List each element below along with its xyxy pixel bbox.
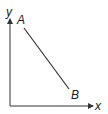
point-a-label: A xyxy=(16,13,25,27)
segment-ab xyxy=(24,28,69,89)
point-b-label: B xyxy=(71,88,79,102)
x-axis-label: x xyxy=(94,99,102,113)
coordinate-diagram: y x A B xyxy=(0,0,108,114)
y-axis-label: y xyxy=(5,5,13,19)
